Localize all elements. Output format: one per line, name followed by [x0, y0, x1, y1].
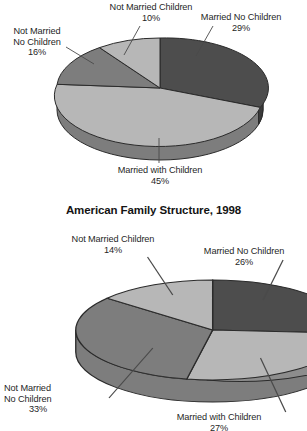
label-married-no-children-pct: 29%: [182, 23, 300, 34]
label-married-no-children-name: Married No Children: [201, 12, 281, 22]
label-married-with-children: Married with Children 45%: [99, 165, 221, 186]
label-married-with-children-pct: 45%: [99, 176, 221, 187]
label-married-no-children-name: Married No Children: [204, 246, 284, 256]
label-not-married-children-pct: 14%: [55, 245, 171, 256]
label-married-no-children: Married No Children 26%: [186, 246, 302, 267]
label-not-married-no-children: Not Married No Children 33%: [4, 383, 84, 415]
label-not-married-no-children-name-line1: Not Married: [4, 383, 51, 393]
label-not-married-children-name: Not Married Children: [72, 234, 155, 244]
label-married-no-children-pct: 26%: [186, 257, 302, 268]
label-married-with-children-name: Married with Children: [118, 165, 203, 175]
label-not-married-no-children-pct: 33%: [4, 404, 72, 415]
pie-chart-bottom: American Family Structure, 1998: [0, 200, 307, 431]
label-married-with-children-name: Married with Children: [177, 412, 262, 422]
label-not-married-no-children-name-line1: Not Married: [14, 26, 61, 36]
pie-top-slices: [54, 38, 268, 147]
label-not-married-no-children: Not Married No Children 16%: [2, 26, 72, 58]
slice-married-no-children: [213, 280, 307, 333]
figure-page: Not Married Children 10% Married No Chil…: [0, 0, 307, 431]
label-married-with-children-pct: 27%: [157, 423, 281, 431]
label-not-married-children: Not Married Children 14%: [55, 234, 171, 255]
label-not-married-no-children-name-line2: No Children: [4, 394, 51, 404]
label-not-married-no-children-name-line2: No Children: [13, 37, 60, 47]
label-married-with-children: Married with Children 27%: [157, 412, 281, 431]
label-not-married-children-name: Not Married Children: [110, 2, 193, 12]
label-married-no-children: Married No Children 29%: [182, 12, 300, 33]
pie-chart-top: Not Married Children 10% Married No Chil…: [0, 0, 307, 200]
label-not-married-no-children-pct: 16%: [2, 47, 72, 58]
